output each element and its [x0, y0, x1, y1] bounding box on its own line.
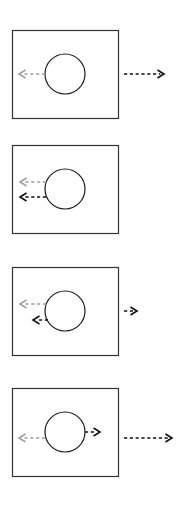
panel-2-box — [13, 146, 119, 234]
outer-black-right-arrow — [124, 434, 172, 442]
panel-3-box — [13, 268, 119, 356]
vector-diagram-canvas — [0, 0, 193, 510]
panel-1-box — [13, 31, 119, 119]
panel-4-box — [13, 389, 119, 477]
panel-1 — [13, 31, 165, 119]
panel-3 — [13, 268, 138, 356]
outer-black-right-arrow-short — [124, 307, 137, 315]
figure-root: Four-panel vector diagram — [0, 0, 193, 510]
outer-black-right-arrow — [124, 70, 164, 78]
panel-2 — [13, 146, 119, 234]
outer-black-right-arrow-head — [158, 70, 165, 78]
panel-4 — [13, 389, 173, 477]
